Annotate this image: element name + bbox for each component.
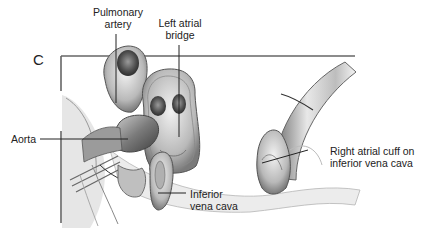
surgical-illustration: C Pulmonary artery Left atrial bridge Ao…: [0, 0, 422, 244]
label-line: Pulmonary: [89, 6, 147, 18]
label-pulmonary-artery: Pulmonary artery: [89, 6, 147, 30]
label-line: bridge: [152, 29, 208, 41]
label-line: Inferior: [190, 188, 238, 200]
label-line: Left atrial: [152, 17, 208, 29]
label-inferior-vena-cava: Inferior vena cava: [190, 188, 238, 212]
label-left-atrial-bridge: Left atrial bridge: [152, 17, 208, 41]
label-aorta: Aorta: [11, 133, 36, 145]
panel-letter: C: [33, 51, 44, 68]
label-right-atrial-cuff: Right atrial cuff on inferior vena cava: [330, 145, 414, 169]
label-line: Right atrial cuff on: [330, 145, 414, 157]
label-line: vena cava: [190, 200, 238, 212]
label-line: artery: [89, 18, 147, 30]
label-line: inferior vena cava: [330, 157, 414, 169]
